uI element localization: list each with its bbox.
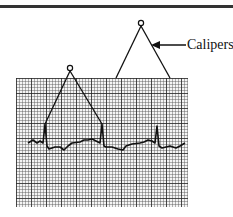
callout-arrow (151, 41, 186, 49)
diagram-overlay (0, 0, 233, 217)
caliper-pivot-icon (67, 65, 72, 70)
calipers-label: Calipers (187, 37, 233, 53)
ecg-trace (28, 124, 185, 150)
arrowhead-icon (151, 41, 160, 49)
caliper-pivot-icon (138, 20, 143, 25)
large-caliper (116, 20, 170, 78)
small-caliper (45, 65, 102, 124)
